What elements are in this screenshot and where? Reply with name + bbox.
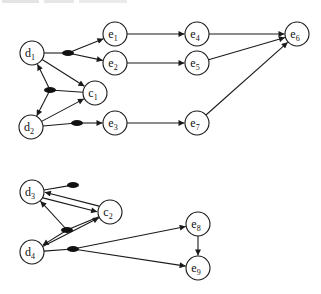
node-c1: c1 bbox=[83, 81, 107, 105]
node-e7: e7 bbox=[185, 111, 209, 135]
junction-j6 bbox=[67, 246, 79, 252]
node-e6: e6 bbox=[285, 22, 309, 46]
edge-e5-e6 bbox=[209, 37, 285, 59]
edge-c2-d3 bbox=[45, 192, 99, 206]
edge-c2-j5 bbox=[67, 217, 98, 230]
clipped-text-residue bbox=[2, 0, 127, 3]
node-c2: c2 bbox=[98, 200, 122, 224]
junction-j5 bbox=[61, 227, 73, 233]
edge-j1-e1 bbox=[68, 39, 103, 53]
junction-j4 bbox=[67, 182, 79, 188]
edge-j2-d2 bbox=[37, 90, 50, 116]
edge-d3-c2 bbox=[43, 198, 97, 212]
edge-j6-e8 bbox=[73, 226, 186, 249]
node-e1: e1 bbox=[103, 22, 127, 46]
node-e4: e4 bbox=[185, 22, 209, 46]
edge-j2-d1 bbox=[37, 64, 50, 90]
junction-j3 bbox=[71, 120, 83, 126]
diagram-canvas: d1d2c1e1e2e3e4e5e7e6d3d4c2e8e9 bbox=[0, 0, 321, 294]
node-e3: e3 bbox=[103, 111, 127, 135]
node-d4: d4 bbox=[20, 240, 44, 264]
edge-j6-e9 bbox=[73, 249, 186, 266]
edge-j5-d3 bbox=[40, 201, 67, 230]
node-e2: e2 bbox=[103, 51, 127, 75]
edge-layer bbox=[37, 34, 288, 266]
node-d3: d3 bbox=[20, 180, 44, 204]
node-d1: d1 bbox=[20, 41, 44, 65]
junction-layer bbox=[44, 50, 83, 252]
junction-j1 bbox=[62, 50, 74, 56]
edge-e7-e6 bbox=[206, 42, 288, 115]
node-e5: e5 bbox=[185, 51, 209, 75]
node-d2: d2 bbox=[19, 115, 43, 139]
junction-j2 bbox=[44, 87, 56, 93]
node-e8: e8 bbox=[186, 212, 210, 236]
edge-d2-c1 bbox=[42, 99, 84, 122]
node-e9: e9 bbox=[186, 256, 210, 280]
node-layer: d1d2c1e1e2e3e4e5e7e6d3d4c2e8e9 bbox=[19, 22, 309, 280]
directed-graph: d1d2c1e1e2e3e4e5e7e6d3d4c2e8e9 bbox=[0, 0, 321, 294]
edge-d1-c1 bbox=[42, 59, 84, 86]
